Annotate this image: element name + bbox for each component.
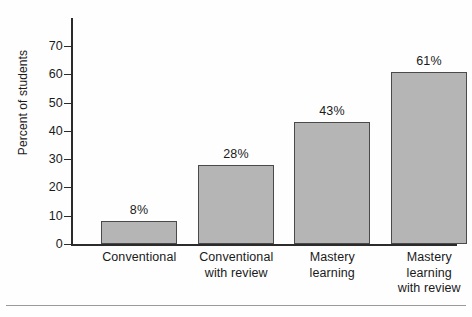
y-axis-tick-label: 40	[29, 125, 63, 137]
x-axis-category-label: Masterylearning	[284, 250, 381, 281]
bar	[198, 165, 274, 244]
x-axis-category-label: Conventional	[91, 250, 188, 266]
bottom-divider-rule	[6, 305, 466, 306]
y-axis-tick-label: 60	[29, 68, 63, 80]
bar	[101, 221, 177, 244]
y-axis-tick-mark	[64, 187, 71, 188]
bar-value-label: 8%	[130, 204, 148, 217]
bar-group: 61%	[391, 72, 467, 244]
y-axis-tick-label: 50	[29, 97, 63, 109]
y-axis-tick-label: 30	[29, 153, 63, 165]
y-axis-tick-mark	[64, 131, 71, 132]
y-axis-tick-label: 0	[29, 238, 63, 250]
x-axis-category-label: Conventionalwith review	[188, 250, 285, 281]
y-axis-tick-mark	[64, 46, 71, 47]
x-axis-line	[71, 244, 457, 246]
y-axis-tick-mark	[64, 103, 71, 104]
y-axis-tick-mark	[64, 159, 71, 160]
bar-group: 43%	[294, 122, 370, 244]
plot-area: 010203040506070 8%28%43%61%	[71, 18, 457, 246]
bar-group: 28%	[198, 165, 274, 244]
bar	[391, 72, 467, 244]
y-axis-tick-label: 70	[29, 40, 63, 52]
bar-value-label: 61%	[416, 55, 442, 68]
y-axis-tick-mark	[64, 216, 71, 217]
y-axis-line	[71, 18, 73, 246]
bar-group: 8%	[101, 221, 177, 244]
y-axis-tick-label: 20	[29, 181, 63, 193]
bar-value-label: 43%	[319, 105, 345, 118]
y-axis-tick-label: 10	[29, 210, 63, 222]
bar-chart-figure: Percent of students 010203040506070 8%28…	[0, 0, 472, 317]
y-axis-tick-labels: 010203040506070	[23, 18, 63, 246]
bar-value-label: 28%	[223, 148, 249, 161]
y-axis-tick-mark	[64, 244, 71, 245]
x-axis-category-labels: ConventionalConventionalwith reviewMaste…	[71, 250, 457, 308]
x-axis-category-label: Masterylearningwith review	[381, 250, 472, 297]
bar	[294, 122, 370, 244]
y-axis-tick-mark	[64, 74, 71, 75]
